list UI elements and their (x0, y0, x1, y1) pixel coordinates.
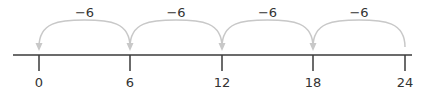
arrowhead-icon (127, 43, 134, 51)
jump-label: −6 (349, 5, 368, 20)
jump-arcs: −6−6−6−6 (36, 5, 406, 51)
jump-arc (130, 20, 222, 47)
jump-label: −6 (258, 5, 277, 20)
arrowhead-icon (310, 43, 317, 51)
jump-arc (39, 20, 130, 47)
arrowhead-icon (219, 43, 226, 51)
jump-arc (222, 20, 313, 47)
arrowhead-icon (36, 43, 43, 51)
tick-label: 18 (305, 75, 322, 90)
tick-label: 12 (214, 75, 231, 90)
tick-label: 24 (397, 75, 414, 90)
number-line-diagram: −6−6−6−6 06121824 (0, 0, 421, 92)
tick-label: 0 (35, 75, 43, 90)
jump-arc (313, 20, 405, 47)
tick-marks: 06121824 (35, 55, 413, 90)
jump-label: −6 (75, 5, 94, 20)
tick-label: 6 (126, 75, 134, 90)
jump-label: −6 (166, 5, 185, 20)
